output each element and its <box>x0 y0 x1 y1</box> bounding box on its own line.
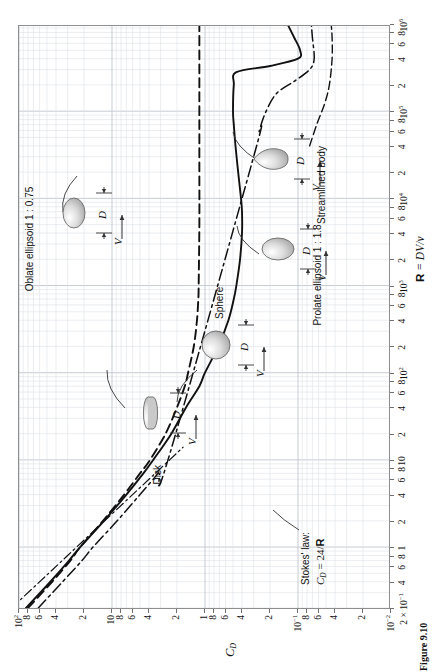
y-tick <box>18 609 19 613</box>
x-tick-label: 2 <box>397 519 407 524</box>
y-tick <box>213 609 214 613</box>
x-tick-label: 104 <box>397 193 409 206</box>
y-tick <box>132 609 133 613</box>
y-tick-label: 6 <box>34 615 44 649</box>
y-tick <box>318 609 319 613</box>
x-tick-label: 2 <box>397 432 407 437</box>
y-tick-label: 4 <box>143 615 153 649</box>
sphere-D-label: D <box>238 343 250 351</box>
figure-caption: Figure 9.10 <box>418 623 429 671</box>
x-tick-label: 4 <box>397 493 407 498</box>
y-tick-label: 8 <box>22 615 32 649</box>
x-tick-label: 105 <box>397 106 409 119</box>
x-tick <box>390 320 394 321</box>
x-tick-label: 4 <box>397 57 407 62</box>
x-tick-label: 1 <box>397 546 407 551</box>
x-tick-label: 2 <box>397 171 407 176</box>
x-tick <box>390 207 394 208</box>
x-tick <box>390 32 394 33</box>
x-axis-title: R = DV/ν <box>414 237 426 282</box>
y-tick <box>204 609 205 613</box>
x-tick <box>390 286 394 287</box>
y-tick-label: 4 <box>50 615 60 649</box>
disk-label: Disk <box>152 465 163 484</box>
y-tick <box>225 609 226 613</box>
x-tick-label: 2 <box>397 84 407 89</box>
x-tick <box>390 495 394 496</box>
x-tick <box>390 479 394 480</box>
prolate-body-icon <box>258 223 298 275</box>
y-axis-title: CD <box>223 643 238 657</box>
oblate-V-label: V <box>112 238 124 245</box>
y-tick-label: 4 <box>329 615 339 649</box>
drag-coefficient-figure: 2 × 10−146812468102468102246810324681042… <box>0 0 441 671</box>
disk-D-label: D <box>170 411 182 419</box>
y-tick <box>176 609 177 613</box>
x-tick <box>390 111 394 112</box>
x-tick <box>390 198 394 199</box>
x-tick <box>390 233 394 234</box>
x-tick-label: 6 <box>397 42 407 47</box>
y-tick <box>269 609 270 613</box>
x-tick-label: 6 <box>397 129 407 134</box>
x-tick-label: 6 <box>397 216 407 221</box>
y-tick-label: 2 <box>357 615 367 649</box>
x-tick-label: 4 <box>397 319 407 324</box>
y-tick <box>111 609 112 613</box>
x-tick <box>390 24 394 25</box>
stokes-law-label-line1: Stokes' law: <box>300 532 311 585</box>
x-tick-label: 6 <box>397 478 407 483</box>
x-tick <box>390 120 394 121</box>
oblate-D-label: D <box>96 211 108 219</box>
x-tick <box>390 294 394 295</box>
x-tick <box>390 407 394 408</box>
x-tick-label: 6 <box>397 565 407 570</box>
rotated-figure-container: 2 × 10−146812468102468102246810324681042… <box>0 0 441 671</box>
stokes-law-label-line2: CD = 24/R <box>314 539 326 585</box>
y-tick <box>241 609 242 613</box>
y-tick <box>306 609 307 613</box>
streamlined-label: Streamlined body <box>316 146 327 224</box>
sphere-body-icon <box>196 319 236 371</box>
oblate-body-icon <box>54 187 94 239</box>
y-tick <box>297 609 298 613</box>
x-tick-label: 4 <box>397 232 407 237</box>
x-tick-label: 8 <box>397 205 407 210</box>
x-tick-label: 102 <box>397 367 409 380</box>
x-tick-label: 106 <box>397 19 409 32</box>
y-tick <box>390 609 391 613</box>
y-tick <box>148 609 149 613</box>
sphere-V-label: V <box>254 370 266 377</box>
x-tick-label: 2 <box>397 345 407 350</box>
x-tick-label: 6 <box>397 391 407 396</box>
x-tick-label: 6 <box>397 304 407 309</box>
disk-body-icon <box>128 387 168 439</box>
x-tick-label: 2 × 10−1 <box>397 593 409 624</box>
x-tick <box>390 392 394 393</box>
x-tick <box>390 85 394 86</box>
x-tick-label: 10 <box>397 456 407 466</box>
x-tick <box>390 566 394 567</box>
x-tick <box>390 460 394 461</box>
y-tick-label: 2 <box>264 615 274 649</box>
x-tick <box>390 521 394 522</box>
x-tick <box>390 547 394 548</box>
x-tick-label: 4 <box>397 580 407 585</box>
x-tick <box>390 346 394 347</box>
figure-stage: 2 × 10−146812468102468102246810324681042… <box>0 0 441 671</box>
x-tick-label: 2 <box>397 258 407 263</box>
prolate-D-label: D <box>300 247 312 255</box>
x-tick-label: 103 <box>397 280 409 293</box>
x-tick-label: 8 <box>397 293 407 298</box>
plot-area <box>18 25 390 609</box>
x-tick <box>390 373 394 374</box>
x-tick <box>390 305 394 306</box>
x-tick <box>390 434 394 435</box>
x-tick <box>390 146 394 147</box>
grid-group <box>19 25 390 608</box>
sphere-label: Sphere <box>214 287 225 319</box>
streamlined-D-label: D <box>294 157 306 165</box>
y-tick <box>39 609 40 613</box>
x-tick <box>390 218 394 219</box>
y-tick-label: 2 <box>171 615 181 649</box>
